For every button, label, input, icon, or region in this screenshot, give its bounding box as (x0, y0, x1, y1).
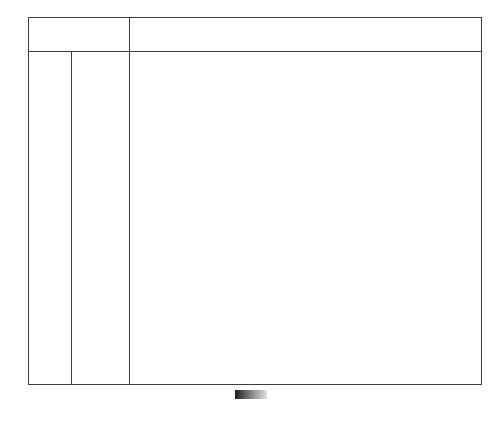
header-precious-metals (29, 18, 71, 52)
figure-root (0, 0, 501, 421)
column-separator-perovskite (129, 18, 130, 384)
legend-gradient-swatch (235, 390, 267, 399)
header-axis (130, 18, 481, 52)
plot-gridlines (130, 52, 481, 384)
legend (0, 390, 501, 399)
table-header (29, 18, 481, 52)
chart-table-frame (28, 17, 482, 385)
header-perovskite (72, 18, 129, 52)
column-separator-metals (71, 52, 72, 384)
